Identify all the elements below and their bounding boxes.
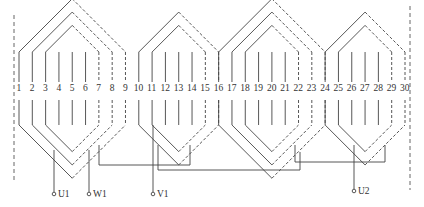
winding-diagram: U1 W1 V1 U2 1234567891011121314151617181… [0, 0, 424, 207]
slot-label: 3 [43, 83, 48, 93]
jumper-wire-g3-g4 [295, 145, 385, 162]
coil-end-top [179, 12, 219, 52]
slot-label: 11 [147, 83, 156, 93]
slot-label: 9 [123, 83, 128, 93]
slot-labels: 1234567891011121314151617181920212223242… [17, 83, 410, 93]
slot-label: 17 [227, 83, 237, 93]
coil-end-bottom [179, 125, 206, 152]
slot-label: 1 [17, 83, 22, 93]
coil-end-top [72, 0, 125, 52]
slot-label: 21 [280, 83, 290, 93]
slot-label: 14 [187, 83, 197, 93]
slot-label: 27 [360, 83, 370, 93]
slot-label: 23 [307, 83, 317, 93]
coil-end-top [338, 25, 365, 52]
coil-end-top [245, 25, 272, 52]
coil-end-bottom [46, 125, 73, 152]
coil-end-top [365, 12, 405, 52]
terminal-dot-icon [352, 189, 356, 193]
terminal-u2[interactable]: U2 [352, 145, 370, 196]
slot-label: 22 [294, 83, 304, 93]
terminal-label-u2: U2 [358, 186, 370, 196]
coil-end-bottom [325, 125, 365, 165]
coil-end-top [272, 12, 312, 52]
coil-end-top [72, 12, 112, 52]
coil-end-bottom [72, 125, 99, 152]
slot-label: 13 [174, 83, 184, 93]
terminal-dot-icon [52, 192, 56, 196]
slot-label: 29 [387, 83, 397, 93]
coil-end-bottom [179, 125, 219, 165]
terminal-dot-icon [151, 192, 155, 196]
terminal-u1[interactable]: U1 [52, 150, 70, 199]
coil-end-bottom [19, 125, 72, 178]
coil-end-top [32, 12, 72, 52]
slot-label: 4 [56, 83, 61, 93]
coil-end-top [46, 25, 73, 52]
terminal-label-v1: V1 [157, 189, 169, 199]
coil-end-bottom [152, 125, 179, 152]
coil-end-top [232, 12, 272, 52]
coil-end-top [152, 25, 179, 52]
slot-label: 8 [110, 83, 115, 93]
slot-label: 10 [134, 83, 144, 93]
terminal-label-w1: W1 [93, 189, 107, 199]
slot-label: 28 [373, 83, 383, 93]
coil-end-bottom [139, 125, 179, 165]
coil-end-bottom [245, 125, 272, 152]
coil-end-bottom [232, 125, 272, 165]
slot-label: 15 [200, 83, 210, 93]
coil-end-top [272, 0, 325, 52]
coil-end-top [19, 0, 72, 52]
terminal-label-u1: U1 [58, 189, 70, 199]
coil-end-bottom [32, 125, 72, 165]
coil-end-top [179, 25, 206, 52]
terminal-w1[interactable]: W1 [87, 150, 107, 199]
slot-label: 26 [347, 83, 357, 93]
coil-end-top [219, 0, 272, 52]
coil-end-bottom [365, 125, 392, 152]
coil-end-top [72, 25, 99, 52]
slot-label: 20 [267, 83, 277, 93]
slot-label: 25 [333, 83, 343, 93]
coil-end-bottom [272, 125, 312, 165]
slot-label: 24 [320, 83, 330, 93]
slot-label: 16 [214, 83, 224, 93]
coil-end-top [365, 25, 392, 52]
slot-label: 19 [254, 83, 264, 93]
coil-end-bottom [272, 125, 299, 152]
slot-label: 12 [160, 83, 170, 93]
coil-end-top [139, 12, 179, 52]
coil-end-bottom [338, 125, 365, 152]
coil-end-bottom [72, 125, 112, 165]
terminal-dot-icon [87, 192, 91, 196]
slot-label: 7 [96, 83, 101, 93]
terminal-v1[interactable]: V1 [151, 125, 169, 199]
slot-label: 5 [70, 83, 75, 93]
slot-label: 30 [400, 83, 410, 93]
slot-label: 6 [83, 83, 88, 93]
slot-label: 18 [240, 83, 250, 93]
coil-end-top [325, 12, 365, 52]
coil-end-top [272, 25, 299, 52]
slot-label: 2 [30, 83, 35, 93]
